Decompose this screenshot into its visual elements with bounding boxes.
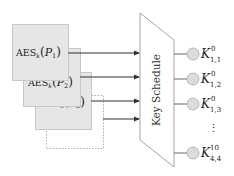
output-node-k44 [187, 147, 199, 159]
output-node-k12 [187, 73, 199, 85]
output-label-k11: K 0 1,1 [200, 45, 221, 64]
svg-text:0: 0 [211, 45, 215, 53]
svg-text:4,4: 4,4 [210, 155, 222, 163]
svg-text:0: 0 [211, 70, 215, 78]
output-label-k12: K 0 1,2 [200, 70, 221, 89]
svg-text:0: 0 [211, 95, 215, 103]
vertical-ellipsis: ⋮ [208, 122, 219, 135]
svg-text:1,3: 1,3 [210, 106, 221, 114]
key-schedule-label: Key Schedule [150, 54, 162, 126]
svg-text:10: 10 [210, 144, 219, 152]
svg-text:1,1: 1,1 [210, 56, 221, 64]
output-label-k13: K 0 1,3 [200, 95, 221, 114]
output-label-k44: K 10 4,4 [200, 144, 222, 163]
aes-box-p1: AESk(P1) [13, 25, 69, 81]
svg-text:1,2: 1,2 [210, 81, 221, 89]
diagram-canvas: AESk(P3) AESk(P2) AESk(P1) Key Schedule … [0, 0, 234, 176]
output-node-k11 [187, 48, 199, 60]
output-node-k13 [187, 98, 199, 110]
